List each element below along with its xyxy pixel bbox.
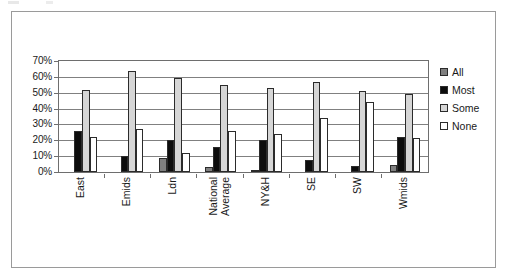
x-axis-label-line: SW	[352, 177, 363, 247]
bar-most	[351, 166, 359, 172]
legend-label: All	[452, 67, 464, 78]
x-axis-label-line: East	[75, 177, 86, 247]
y-axis-tick-label: 40%	[33, 104, 52, 114]
x-axis-label: Ldn	[167, 177, 178, 247]
y-axis-tick-label: 10%	[33, 151, 52, 161]
x-axis-label-line: National	[207, 177, 219, 247]
bar-group	[297, 61, 327, 172]
x-axis-label-line: Ldn	[167, 177, 178, 247]
bar-some	[267, 88, 275, 172]
chart-canvas: 70%60%50%40%30%20%10%0% EastEmidsLdnNati…	[12, 12, 495, 267]
bar-none	[320, 118, 328, 172]
bar-most	[121, 156, 129, 172]
x-axis-tick-mark	[104, 174, 105, 178]
bar-group	[67, 61, 97, 172]
x-axis-tick-mark	[150, 174, 151, 178]
bar-most	[213, 147, 221, 172]
bar-all	[251, 170, 259, 172]
bar-group	[113, 61, 143, 172]
legend-label: None	[452, 121, 477, 132]
legend-label: Some	[452, 103, 479, 114]
bar-none	[90, 137, 98, 172]
x-axis-label-line: Wmids	[398, 177, 409, 247]
y-axis-tick-label: 70%	[33, 56, 52, 66]
bar-some	[313, 82, 321, 172]
x-axis-label: SW	[352, 177, 363, 247]
legend-swatch-icon	[440, 86, 448, 94]
bar-group	[390, 61, 420, 172]
bar-some	[128, 71, 136, 172]
x-axis-label: NY&H	[260, 177, 271, 247]
bar-none	[136, 129, 144, 172]
bar-all	[205, 167, 213, 172]
legend-swatch-icon	[440, 122, 448, 130]
bar-none	[228, 131, 236, 172]
x-axis-label-line: NY&H	[260, 177, 271, 247]
bar-some	[82, 90, 90, 172]
x-axis-label: SE	[306, 177, 317, 247]
legend-item-none[interactable]: None	[440, 118, 494, 134]
y-axis-tick-label: 0%	[38, 167, 52, 177]
x-axis-tick-mark	[243, 174, 244, 178]
x-axis-tick-mark	[381, 174, 382, 178]
bar-none	[413, 138, 421, 172]
bar-group	[251, 61, 281, 172]
x-axis-label: East	[75, 177, 86, 247]
x-axis-label: Emids	[121, 177, 132, 247]
x-axis-label: Wmids	[398, 177, 409, 247]
x-axis-tick-mark	[335, 174, 336, 178]
bar-some	[359, 91, 367, 172]
x-axis-label-line: Average	[219, 177, 231, 247]
y-axis-tick-label: 60%	[33, 72, 52, 82]
bar-none	[274, 134, 282, 172]
plot-area	[58, 60, 429, 173]
bar-most	[74, 131, 82, 172]
bar-some	[405, 94, 413, 172]
bar-group	[159, 61, 189, 172]
x-axis-label: NationalAverage	[207, 177, 231, 247]
bar-most	[167, 140, 175, 172]
legend-item-most[interactable]: Most	[440, 82, 494, 98]
bar-none	[366, 102, 374, 172]
bar-group	[205, 61, 235, 172]
bar-some	[220, 85, 228, 172]
bar-group	[344, 61, 374, 172]
legend-swatch-icon	[440, 68, 448, 76]
y-axis-tick-label: 30%	[33, 119, 52, 129]
bar-none	[182, 153, 190, 172]
y-axis-tick-label: 50%	[33, 88, 52, 98]
scan-artifact-line	[8, 1, 98, 4]
legend-label: Most	[452, 85, 475, 96]
chart-legend: AllMostSomeNone	[440, 64, 494, 136]
legend-item-all[interactable]: All	[440, 64, 494, 80]
legend-swatch-icon	[440, 104, 448, 112]
bar-most	[259, 140, 267, 172]
chart-frame: 70%60%50%40%30%20%10%0% EastEmidsLdnNati…	[11, 11, 496, 268]
x-axis-tick-mark	[196, 174, 197, 178]
x-axis-tick-mark	[289, 174, 290, 178]
bar-all	[390, 165, 398, 172]
bar-most	[305, 160, 313, 172]
bars-layer	[59, 61, 428, 172]
x-axis-label-line: Emids	[121, 177, 132, 247]
legend-item-some[interactable]: Some	[440, 100, 494, 116]
y-axis: 70%60%50%40%30%20%10%0%	[12, 52, 58, 182]
bar-all	[159, 158, 167, 172]
y-axis-tick-label: 20%	[33, 135, 52, 145]
x-axis-labels: EastEmidsLdnNationalAverageNY&HSESWWmids	[58, 175, 429, 255]
bar-some	[174, 78, 182, 172]
bar-most	[397, 137, 405, 172]
x-axis-label-line: SE	[306, 177, 317, 247]
